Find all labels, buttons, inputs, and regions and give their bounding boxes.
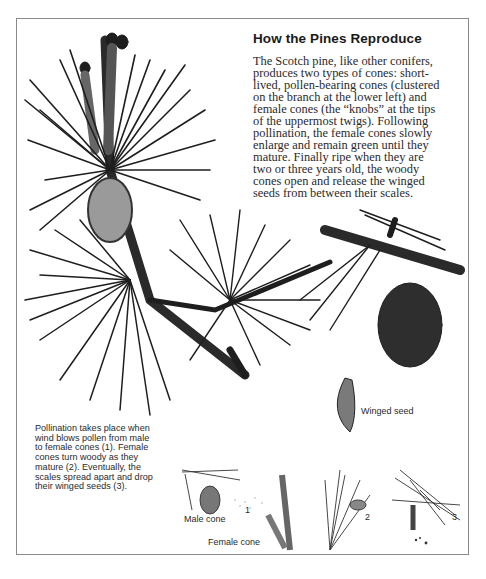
body-line: seeds from between their scales. bbox=[253, 187, 465, 199]
stage-1-label: 1 bbox=[245, 505, 250, 515]
stage-2-label: 2 bbox=[365, 512, 370, 522]
female-cone-label: Female cone bbox=[208, 537, 260, 547]
winged-seed-label: Winged seed bbox=[361, 406, 414, 416]
male-cone-label: Male cone bbox=[184, 514, 226, 524]
pollination-caption: Pollination takes place when wind blows … bbox=[35, 424, 180, 492]
caption-line: their winged seeds (3). bbox=[35, 482, 180, 492]
stage-3-label: 3 bbox=[452, 512, 457, 522]
page-title: How the Pines Reproduce bbox=[253, 31, 422, 46]
description-paragraph: The Scotch pine, like other conifers, pr… bbox=[253, 55, 465, 199]
